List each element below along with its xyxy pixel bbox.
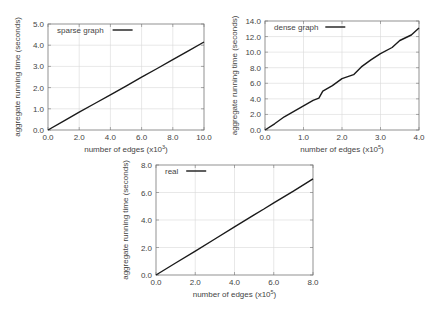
y-axis-label: aggregate running time (seconds) — [13, 17, 22, 137]
y-tick-label: 2.0 — [250, 110, 262, 119]
y-axis-label: aggregate running time (seconds) — [121, 160, 130, 280]
x-tick-label: 10.0 — [196, 133, 212, 142]
x-tick-label: 4.0 — [229, 278, 241, 287]
sparse-graph-chart: 0.02.04.06.08.010.00.01.02.03.04.05.0spa… — [13, 17, 212, 154]
x-tick-label: 3.0 — [375, 133, 387, 142]
y-tick-label: 10.0 — [245, 48, 261, 57]
y-tick-label: 4.0 — [33, 41, 45, 50]
y-axis-label: aggregate running time (seconds) — [230, 15, 239, 135]
x-axis-label: number of edges (x105) — [300, 144, 384, 154]
x-tick-label: 8.0 — [167, 133, 179, 142]
y-tick-label: 14.0 — [245, 17, 261, 26]
y-tick-label: 0.0 — [33, 126, 45, 135]
dense-graph-chart: 0.01.02.03.04.00.02.04.06.08.010.012.014… — [230, 15, 425, 154]
real-graph-chart: 0.02.04.06.08.00.02.04.06.08.0realnumber… — [121, 160, 319, 299]
x-axis-label: number of edges (x103) — [84, 144, 168, 154]
x-tick-label: 8.0 — [307, 278, 319, 287]
y-tick-label: 2.0 — [33, 84, 45, 93]
y-tick-label: 8.0 — [141, 161, 153, 170]
x-tick-label: 1.0 — [298, 133, 310, 142]
y-tick-label: 0.0 — [250, 126, 262, 135]
legend-label: sparse graph — [57, 26, 104, 35]
x-tick-label: 6.0 — [136, 133, 148, 142]
legend-label: real — [165, 167, 179, 176]
y-tick-label: 12.0 — [245, 33, 261, 42]
y-tick-label: 6.0 — [250, 79, 262, 88]
legend-label: dense graph — [274, 23, 318, 32]
legend: dense graph — [274, 23, 345, 32]
y-tick-label: 3.0 — [33, 62, 45, 71]
y-tick-label: 5.0 — [33, 20, 45, 29]
y-tick-label: 0.0 — [141, 271, 153, 280]
x-axis-label: number of edges (x105) — [193, 289, 277, 299]
x-tick-label: 0.0 — [259, 133, 271, 142]
y-tick-label: 4.0 — [250, 95, 262, 104]
x-tick-label: 4.0 — [413, 133, 425, 142]
x-tick-label: 2.0 — [336, 133, 348, 142]
legend: real — [165, 167, 206, 176]
y-tick-label: 4.0 — [141, 216, 153, 225]
y-tick-label: 2.0 — [141, 244, 153, 253]
x-tick-label: 0.0 — [42, 133, 54, 142]
figure: 0.02.04.06.08.010.00.01.02.03.04.05.0spa… — [0, 0, 442, 315]
x-tick-label: 2.0 — [190, 278, 202, 287]
x-tick-label: 6.0 — [268, 278, 280, 287]
x-tick-label: 0.0 — [150, 278, 162, 287]
data-line — [48, 42, 204, 130]
plot-frame — [48, 24, 204, 130]
y-tick-label: 8.0 — [250, 64, 262, 73]
y-tick-label: 6.0 — [141, 189, 153, 198]
y-tick-label: 1.0 — [33, 105, 45, 114]
x-tick-label: 2.0 — [74, 133, 86, 142]
legend: sparse graph — [57, 26, 133, 35]
x-tick-label: 4.0 — [105, 133, 117, 142]
